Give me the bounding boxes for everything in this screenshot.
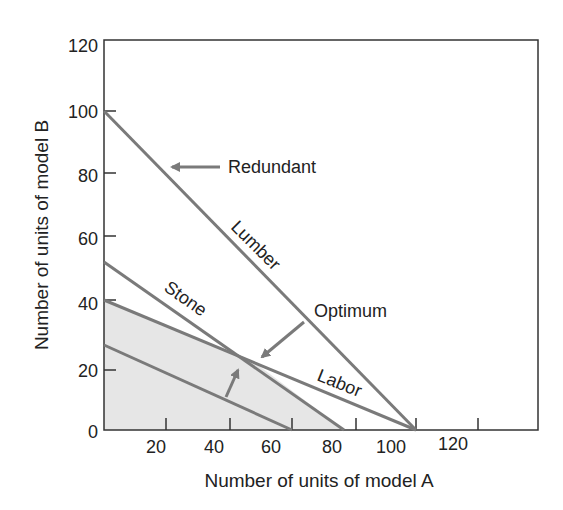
svg-text:60: 60 xyxy=(78,229,98,249)
svg-text:120: 120 xyxy=(438,434,468,454)
svg-text:20: 20 xyxy=(78,361,98,381)
redundant-label: Redundant xyxy=(228,157,316,177)
y-tick-labels: 0 20 40 60 80 100 120 xyxy=(68,36,98,442)
svg-text:0: 0 xyxy=(88,422,98,442)
svg-text:100: 100 xyxy=(68,102,98,122)
svg-text:20: 20 xyxy=(146,437,166,457)
svg-text:120: 120 xyxy=(68,36,98,56)
svg-text:40: 40 xyxy=(204,437,224,457)
optimum-label: Optimum xyxy=(314,301,387,321)
svg-text:40: 40 xyxy=(78,294,98,314)
svg-text:80: 80 xyxy=(322,437,342,457)
stone-label: Stone xyxy=(161,277,211,320)
y-axis-label: Number of units of model B xyxy=(31,120,52,350)
svg-text:60: 60 xyxy=(261,437,281,457)
lp-chart: 0 20 40 60 80 100 120 20 40 60 80 100 12… xyxy=(0,0,563,510)
svg-text:80: 80 xyxy=(78,166,98,186)
svg-text:100: 100 xyxy=(376,437,406,457)
x-tick-labels: 20 40 60 80 100 120 xyxy=(146,434,468,457)
x-axis-label: Number of units of model A xyxy=(204,470,433,491)
optimum-arrow xyxy=(262,322,304,357)
